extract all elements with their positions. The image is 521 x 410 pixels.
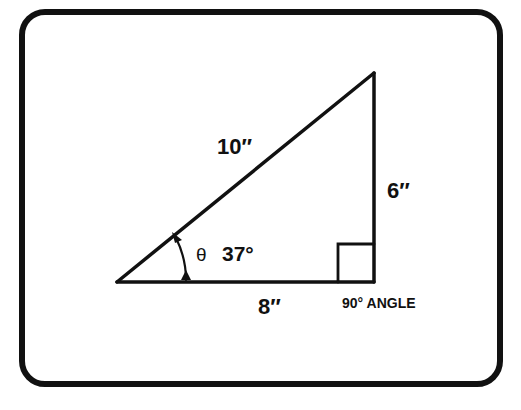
adjacent-label: 8″: [258, 294, 281, 320]
right-angle-label: 90° ANGLE: [342, 295, 416, 311]
angle-value-label: 37°: [222, 242, 254, 266]
right-angle-marker: [338, 244, 374, 282]
hypotenuse-label: 10″: [217, 134, 252, 160]
theta-label: θ: [196, 244, 207, 266]
arrow-down-icon: [181, 270, 191, 280]
triangle-diagram: [0, 0, 521, 410]
opposite-label: 6″: [387, 178, 410, 204]
